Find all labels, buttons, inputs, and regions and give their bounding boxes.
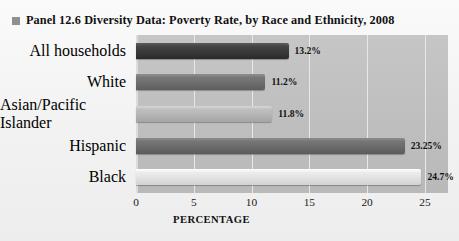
category-axis-labels: All householdsWhiteAsian/Pacific Islande… — [0, 35, 131, 193]
category-label-text: Black — [89, 168, 131, 186]
category-label-text: White — [87, 73, 131, 91]
panel-title-text: Panel 12.6 Diversity Data: Poverty Rate,… — [26, 13, 395, 28]
bar — [136, 74, 265, 90]
x-axis-title-text: PERCENTAGE — [173, 214, 250, 225]
bar — [136, 169, 421, 185]
category-label: All households — [0, 35, 131, 67]
bar — [136, 106, 272, 122]
bar — [136, 138, 405, 154]
x-axis-tick: 20 — [361, 196, 372, 208]
bar-value-label: 13.2% — [295, 45, 321, 56]
x-axis-tick: 15 — [304, 196, 315, 208]
x-axis-tick: 5 — [191, 196, 197, 208]
bar — [136, 43, 289, 59]
bar-value-label: 11.8% — [278, 108, 304, 119]
bar-slot — [136, 67, 265, 99]
bar-value-label: 23.25% — [411, 140, 442, 151]
x-axis-title: PERCENTAGE — [0, 214, 459, 225]
bar-value-label: 11.2% — [271, 76, 297, 87]
category-label: Hispanic — [0, 130, 131, 162]
bar-slot — [136, 35, 289, 67]
category-label-text: All households — [30, 42, 131, 60]
category-label: White — [0, 67, 131, 99]
square-bullet-icon — [12, 17, 20, 25]
bar-slot — [136, 130, 405, 162]
x-axis-tick: 0 — [133, 196, 139, 208]
x-axis-tick: 25 — [419, 196, 430, 208]
figure-panel: Panel 12.6 Diversity Data: Poverty Rate,… — [0, 0, 459, 241]
category-label: Black — [0, 161, 131, 193]
x-axis-tick: 10 — [246, 196, 257, 208]
category-label: Asian/Pacific Islander — [0, 98, 131, 130]
bar-value-label: 24.7% — [427, 171, 453, 182]
category-label-text: Hispanic — [69, 137, 131, 155]
panel-title: Panel 12.6 Diversity Data: Poverty Rate,… — [12, 13, 451, 28]
category-label-text: Asian/Pacific Islander — [0, 96, 131, 132]
bar-slot — [136, 161, 421, 193]
bar-slot — [136, 98, 272, 130]
